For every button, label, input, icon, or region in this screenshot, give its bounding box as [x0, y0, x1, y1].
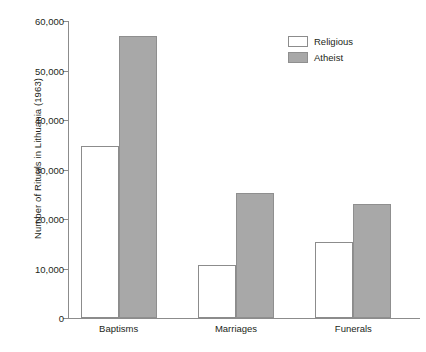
legend-swatch-atheist — [288, 52, 308, 63]
y-axis-line — [68, 21, 69, 319]
x-axis-line — [68, 318, 420, 319]
y-tick-label: 10,000 — [4, 263, 64, 274]
y-tick-label: 0 — [4, 313, 64, 324]
x-axis-label-baptisms: Baptisms — [99, 323, 138, 334]
legend-label-religious: Religious — [314, 36, 353, 47]
legend-label-atheist: Atheist — [314, 52, 343, 63]
bar-funerals-atheist — [353, 204, 391, 318]
bar-baptisms-religious — [81, 146, 119, 318]
legend-swatch-religious — [288, 36, 308, 47]
bar-funerals-religious — [315, 242, 353, 318]
legend: Religious Atheist — [288, 35, 353, 67]
y-tick-label: 40,000 — [4, 115, 64, 126]
y-tick-label: 60,000 — [4, 16, 64, 27]
bar-chart: Number of Rituals in Lithuania (1963) 01… — [0, 0, 426, 352]
bar-marriages-atheist — [236, 193, 274, 318]
x-axis-label-funerals: Funerals — [335, 323, 372, 334]
bar-marriages-religious — [198, 265, 236, 318]
y-tick-label: 30,000 — [4, 164, 64, 175]
plot-area: 010,00020,00030,00040,00050,00060,000 Ba… — [68, 21, 420, 318]
legend-item-atheist: Atheist — [288, 51, 353, 64]
bar-baptisms-atheist — [119, 36, 157, 318]
legend-item-religious: Religious — [288, 35, 353, 48]
y-tick-label: 50,000 — [4, 65, 64, 76]
y-tick-label: 20,000 — [4, 214, 64, 225]
x-axis-label-marriages: Marriages — [215, 323, 257, 334]
